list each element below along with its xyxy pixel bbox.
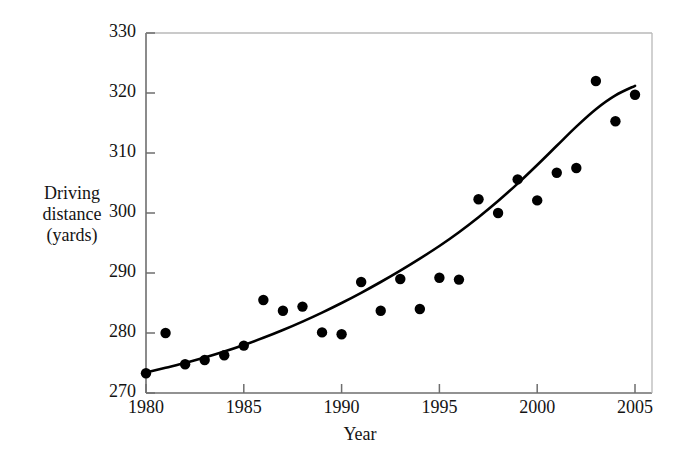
data-point <box>473 194 483 204</box>
data-point <box>141 368 151 378</box>
data-point <box>630 90 640 100</box>
data-point <box>180 359 190 369</box>
x-tick-label: 1995 <box>404 397 474 418</box>
data-point <box>239 340 249 350</box>
driving-distance-chart: Driving distance (yards) Year 2702802903… <box>0 0 689 463</box>
data-point <box>199 355 209 365</box>
x-tick-label: 2005 <box>600 397 670 418</box>
data-point <box>317 327 327 337</box>
axis-frame <box>146 33 652 393</box>
data-point <box>454 274 464 284</box>
y-tick-label: 290 <box>88 261 136 282</box>
data-point <box>552 168 562 178</box>
data-point <box>415 304 425 314</box>
y-tick-label: 280 <box>88 321 136 342</box>
x-tick-marks <box>146 384 635 393</box>
y-tick-label: 300 <box>88 201 136 222</box>
data-point <box>610 116 620 126</box>
data-point <box>376 306 386 316</box>
data-point <box>591 76 601 86</box>
x-tick-label: 2000 <box>502 397 572 418</box>
data-point <box>297 301 307 311</box>
data-point <box>336 329 346 339</box>
y-tick-marks <box>146 33 155 393</box>
y-tick-label: 330 <box>88 21 136 42</box>
trend-curve <box>146 86 635 373</box>
data-point <box>258 295 268 305</box>
y-tick-label: 320 <box>88 81 136 102</box>
data-point <box>532 195 542 205</box>
data-point-group <box>141 76 640 379</box>
data-point <box>493 208 503 218</box>
data-point <box>571 163 581 173</box>
x-tick-label: 1980 <box>111 397 181 418</box>
data-point <box>219 350 229 360</box>
y-tick-label: 310 <box>88 141 136 162</box>
data-point <box>160 328 170 338</box>
x-tick-label: 1985 <box>209 397 279 418</box>
data-point <box>278 306 288 316</box>
data-point <box>356 277 366 287</box>
x-axis-label: Year <box>300 424 420 445</box>
data-point <box>434 273 444 283</box>
data-point <box>512 174 522 184</box>
x-tick-label: 1990 <box>307 397 377 418</box>
data-point <box>395 274 405 284</box>
